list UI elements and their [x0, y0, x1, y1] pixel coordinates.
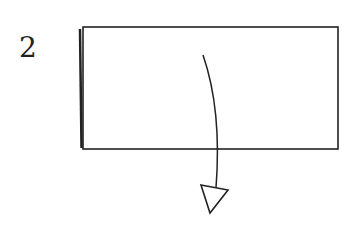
paper-rectangle [80, 27, 338, 149]
fold-diagram [0, 0, 344, 231]
paper-edge-layer [80, 29, 82, 148]
